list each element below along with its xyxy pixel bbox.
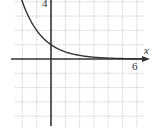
x-tick-label-6: 6 (132, 60, 138, 72)
grid (15, 0, 144, 128)
x-axis-label: x (143, 44, 149, 56)
function-curve (20, 0, 144, 59)
exponential-decay-chart: x 6 4 (0, 0, 153, 138)
y-tick-label-4: 4 (42, 0, 48, 9)
